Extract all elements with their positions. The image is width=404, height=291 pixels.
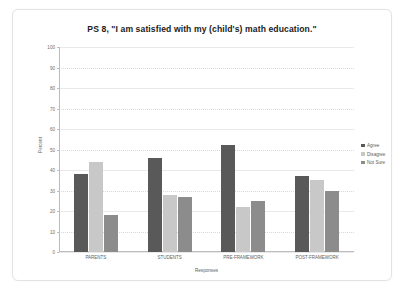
y-axis-tick-label: 20	[50, 209, 55, 214]
gridline	[59, 252, 354, 253]
bar-disagree[interactable]	[89, 162, 103, 252]
plot-inner: 0102030405060708090100	[59, 47, 354, 252]
bar-not-sure[interactable]	[251, 201, 265, 252]
bar-group	[207, 47, 281, 252]
legend-label: Not Sure	[367, 160, 385, 165]
legend-swatch-icon	[361, 144, 365, 148]
legend-label: Disagree	[367, 152, 385, 157]
legend-item[interactable]: Disagree	[361, 152, 385, 157]
bar-layer	[59, 47, 354, 252]
y-axis-title: Percent	[38, 137, 43, 153]
y-axis-tick-label: 100	[47, 45, 55, 50]
y-axis-tick-label: 50	[50, 147, 55, 152]
chart-title: PS 8, "I am satisfied with my (child's) …	[13, 24, 391, 34]
bar-not-sure[interactable]	[178, 197, 192, 252]
legend-label: Agree	[367, 143, 379, 148]
bar-not-sure[interactable]	[104, 215, 118, 252]
chart-container: PS 8, "I am satisfied with my (child's) …	[12, 9, 392, 281]
y-axis-tick-mark	[57, 252, 59, 253]
legend-item[interactable]: Agree	[361, 143, 385, 148]
bar-disagree[interactable]	[310, 180, 324, 252]
plot-area: 0102030405060708090100	[59, 47, 354, 252]
chart-legend: AgreeDisagreeNot Sure	[361, 143, 385, 165]
y-axis-tick-label: 10	[50, 229, 55, 234]
bar-agree[interactable]	[148, 158, 162, 252]
x-axis-tick-label: POST-FRAMEWORK	[280, 255, 354, 260]
bar-disagree[interactable]	[236, 207, 250, 252]
bar-group	[133, 47, 207, 252]
y-axis-tick-label: 90	[50, 65, 55, 70]
bar-group	[280, 47, 354, 252]
y-axis-tick-label: 40	[50, 168, 55, 173]
bar-agree[interactable]	[221, 145, 235, 252]
x-axis-tick-label: PARENTS	[59, 255, 133, 260]
x-axis-tick-label: STUDENTS	[133, 255, 207, 260]
x-axis-tick-labels: PARENTSSTUDENTSPRE-FRAMEWORKPOST-FRAMEWO…	[59, 255, 354, 260]
x-axis-title: Responses	[59, 268, 354, 273]
y-axis-tick-label: 70	[50, 106, 55, 111]
bar-agree[interactable]	[74, 174, 88, 252]
x-axis-tick-label: PRE-FRAMEWORK	[207, 255, 281, 260]
legend-item[interactable]: Not Sure	[361, 160, 385, 165]
y-axis-tick-label: 60	[50, 127, 55, 132]
y-axis-tick-label: 80	[50, 86, 55, 91]
bar-disagree[interactable]	[163, 195, 177, 252]
bar-not-sure[interactable]	[325, 191, 339, 253]
legend-swatch-icon	[361, 161, 365, 165]
bar-agree[interactable]	[295, 176, 309, 252]
legend-swatch-icon	[361, 152, 365, 156]
y-axis-tick-label: 0	[52, 250, 55, 255]
y-axis-tick-label: 30	[50, 188, 55, 193]
bar-group	[59, 47, 133, 252]
